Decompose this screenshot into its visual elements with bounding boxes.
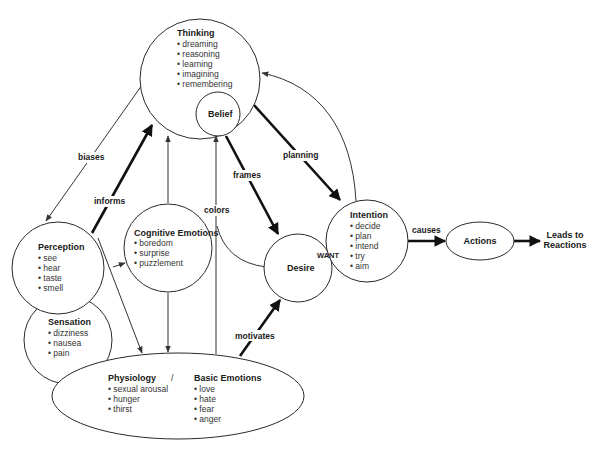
perception-item: • see bbox=[38, 253, 57, 263]
physiology-item: • sexual arousal bbox=[108, 384, 168, 394]
basic-emotions-item: • anger bbox=[194, 414, 221, 424]
intention-item: • plan bbox=[350, 231, 372, 241]
label-want: WANT bbox=[317, 251, 339, 260]
perception-item: • smell bbox=[38, 283, 63, 293]
sensation-item: • nausea bbox=[48, 338, 81, 348]
label-informs: informs bbox=[94, 196, 125, 206]
belief-title: Belief bbox=[208, 109, 234, 119]
node-perception: Perception • see • hear • taste • smell bbox=[12, 222, 104, 314]
intention-item: • intend bbox=[350, 241, 379, 251]
desire-title: Desire bbox=[287, 263, 315, 273]
physiology-item: • hunger bbox=[108, 394, 140, 404]
thinking-item: • learning bbox=[177, 59, 213, 69]
cognitive-emotions-item: • surprise bbox=[134, 248, 170, 258]
node-actions: Actions bbox=[446, 222, 514, 260]
edge-frames bbox=[226, 136, 278, 234]
label-biases: biases bbox=[78, 152, 105, 162]
label-colors: colors bbox=[204, 205, 230, 215]
label-planning: planning bbox=[283, 150, 318, 160]
basic-emotions-item: • love bbox=[194, 384, 215, 394]
reactions-line1: Leads to bbox=[546, 230, 584, 240]
sensation-title: Sensation bbox=[48, 317, 91, 327]
cognitive-emotions-title: Cognitive Emotions bbox=[134, 228, 219, 238]
label-motivates: motivates bbox=[235, 331, 275, 341]
edge-arc-to-desire bbox=[217, 226, 266, 267]
perception-item: • hear bbox=[38, 263, 61, 273]
edge-to-cognitive-emotions bbox=[113, 263, 125, 267]
cognitive-emotions-item: • puzzlement bbox=[134, 258, 183, 268]
edge-motivates bbox=[240, 300, 280, 356]
perception-item: • taste bbox=[38, 273, 62, 283]
thinking-item: • remembering bbox=[177, 79, 233, 89]
basic-emotions-item: • hate bbox=[194, 394, 216, 404]
intention-item: • decide bbox=[350, 221, 381, 231]
cognitive-emotions-item: • boredom bbox=[134, 238, 173, 248]
node-cognitive-emotions: Cognitive Emotions • boredom • surprise … bbox=[124, 204, 219, 292]
thinking-title: Thinking bbox=[177, 28, 215, 38]
thinking-item: • reasoning bbox=[177, 49, 220, 59]
physiology-title: Physiology bbox=[108, 373, 156, 383]
intention-item: • aim bbox=[350, 261, 369, 271]
thinking-item: • dreaming bbox=[177, 39, 218, 49]
reactions-line2: Reactions bbox=[543, 240, 586, 250]
label-causes: causes bbox=[412, 225, 441, 235]
node-reactions: Leads to Reactions bbox=[543, 230, 586, 250]
basic-emotions-title: Basic Emotions bbox=[194, 373, 262, 383]
label-frames: frames bbox=[233, 170, 261, 180]
intention-title: Intention bbox=[350, 210, 388, 220]
node-intention: Intention • decide • plan • intend • try… bbox=[326, 200, 408, 282]
edge-intention-to-thinking bbox=[262, 73, 356, 201]
diagram-canvas: Sensation • dizziness • nausea • pain Pe… bbox=[0, 0, 599, 451]
node-belief: Belief bbox=[196, 92, 240, 136]
perception-title: Perception bbox=[38, 242, 85, 252]
actions-title: Actions bbox=[463, 236, 496, 246]
basic-emotions-item: • fear bbox=[194, 404, 214, 414]
sensation-item: • pain bbox=[48, 348, 70, 358]
thinking-item: • imagining bbox=[177, 69, 219, 79]
physiology-item: • thirst bbox=[108, 404, 132, 414]
node-physiology-basic-emotions: Physiology / • sexual arousal • hunger •… bbox=[52, 353, 304, 439]
node-desire: Desire bbox=[264, 234, 332, 302]
sensation-item: • dizziness bbox=[48, 328, 88, 338]
intention-item: • try bbox=[350, 251, 366, 261]
